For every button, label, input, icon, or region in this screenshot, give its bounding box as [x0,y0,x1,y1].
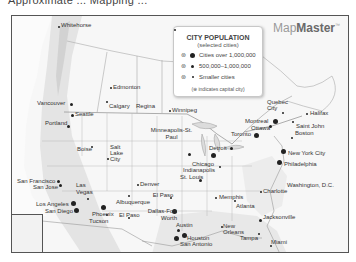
city-dot-miami [270,245,272,247]
city-dot-memphis [215,197,217,199]
city-dot-san-francisco [57,180,60,183]
city-label-new-york-city[interactable]: New York City [288,150,325,156]
city-label-atlanta[interactable]: Atlanta [236,203,255,209]
city-dot-calgary [106,101,108,103]
city-label-indianapolis[interactable]: Indianapolis [183,167,215,173]
city-label-tampa[interactable]: Tampa [240,235,258,241]
city-label-minneapolis-st-paul[interactable]: Minneapolis-St. Paul [149,127,194,141]
city-dot-whitehorse [58,26,60,28]
city-label-calgary[interactable]: Calgary [109,103,130,109]
city-dot-san-diego [74,208,79,213]
capital-star-icon: ⊛ [180,51,187,59]
city-label-vancouver[interactable]: Vancouver [37,100,65,106]
city-label-los-angeles[interactable]: Los Angeles [36,201,69,207]
city-dot-seattle [71,114,74,117]
city-dot-portland [67,125,70,128]
city-dot-albuquerque [128,195,130,197]
capital-star-icon: ⊛ [180,62,187,70]
city-label-halifax[interactable]: Halifax [310,110,328,116]
city-dot-tucson [106,214,108,216]
city-label-detroit[interactable]: Detroit [209,145,227,151]
city-dot-phoenix [101,205,106,210]
city-dot-tampa [258,233,260,235]
city-label-st-louis[interactable]: St. Louis [180,174,203,180]
city-population-legend: CITY POPULATION (selected cities) ⊛Citie… [173,26,263,97]
city-label-las-vegas[interactable]: Las Vegas [76,182,92,196]
legend-capital-note: (⊛ indicates capital city) [174,86,262,92]
city-label-new-orleans[interactable]: New Orleans [223,223,245,235]
legend-title: CITY POPULATION [174,34,262,41]
city-label-montreal[interactable]: Montreal [245,118,268,124]
city-dot-saint-john [292,121,294,123]
inset-map-box [12,214,43,253]
city-dot-philadelphia [277,160,282,165]
city-dot-charlotte [260,191,262,193]
small-dot-icon [192,76,194,78]
city-label-austin[interactable]: Austin [176,222,193,228]
legend-subtitle: (selected cities) [174,42,262,48]
legend-row-medium: ⊛500,000–1,000,000 [180,62,251,70]
mapmaster-logo: MapMaster™ [273,21,340,35]
city-label-el-paso[interactable]: El Paso [119,212,140,218]
legend-row-large: ⊛Cities over 1,000,000 [180,51,256,59]
city-dot-minneapolis [188,153,191,156]
city-dot-montreal [273,119,278,124]
city-dot-san-antonio [174,236,179,241]
large-dot-icon [190,53,195,58]
city-dot-halifax [306,113,308,115]
city-label-boise[interactable]: Boise [77,146,92,152]
city-dot-toronto [254,133,259,138]
city-dot-las-vegas [87,198,89,200]
city-dot-atlanta [234,200,236,202]
city-label-tucson[interactable]: Tucson [89,218,108,224]
city-label-salt-lake-city[interactable]: Salt Lake City [110,144,130,162]
city-dot-detroit [230,147,233,150]
city-label-winnipeg[interactable]: Winnipeg [172,107,197,113]
city-label-ottawa[interactable]: Ottawa [251,125,270,131]
city-dot-winnipeg [169,110,171,112]
city-dot-boston [291,137,293,139]
legend-row-small: ⊛Smaller cities [180,73,235,81]
city-dot-chicago [211,153,216,158]
city-label-boston[interactable]: Boston [295,130,314,136]
city-dot-san-jose [59,184,62,187]
city-label-portland[interactable]: Portland [45,120,67,126]
city-label-albuquerque[interactable]: Albuquerque [116,199,150,205]
city-label-oklahoma-city[interactable]: El Paso [148,192,178,199]
city-label-san-diego[interactable]: San Diego [45,208,73,214]
city-label-regina[interactable]: Regina [136,103,155,109]
map-frame[interactable]: MapMaster™ CITY POPULATION (selected cit… [11,15,349,253]
city-label-edmonton[interactable]: Edmonton [113,84,140,90]
city-label-quebec-city[interactable]: Quebec City [267,99,289,111]
city-label-whitehorse[interactable]: Whitehorse [61,22,91,28]
city-label-washington-dc[interactable]: Washington, D.C. [287,182,334,188]
city-label-denver[interactable]: Denver [140,181,159,187]
city-dot-edmonton [110,87,112,89]
city-label-philadelphia[interactable]: Philadelphia [284,161,317,167]
capital-star-icon: ⊛ [180,73,187,81]
city-label-phoenix[interactable]: Phoenix [92,211,114,217]
city-label-san-jose[interactable]: San Jose [33,184,58,190]
city-dot-indianapolis [219,166,221,168]
city-label-memphis[interactable]: Memphis [219,194,243,200]
city-dot-austin [177,229,180,232]
city-label-san-antonio[interactable]: San Antonio [180,241,212,247]
medium-dot-icon [191,65,194,68]
cut-off-title: Approximate ... Mapping ... [8,0,148,6]
city-label-dallas-fort-worth[interactable]: Dallas-Fort Worth [142,208,177,222]
city-label-miami[interactable]: Miami [271,239,287,245]
city-dot-jacksonville [259,219,262,222]
city-dot-whitehorse [174,29,176,31]
city-dot-denver [137,184,139,186]
city-label-toronto[interactable]: Toronto [231,131,251,137]
city-label-jacksonville[interactable]: Jacksonville [263,214,295,220]
city-dot-los-angeles [71,201,76,206]
city-dot-vancouver [70,103,73,106]
city-dot-salt-lake-city [107,158,109,160]
city-label-saint-john[interactable]: Saint John [296,123,324,129]
city-label-seattle[interactable]: Seattle [75,111,94,117]
city-dot-quebec-city [282,112,284,114]
city-label-charlotte[interactable]: Charlotte [263,188,287,194]
city-dot-new-york-city [281,149,286,154]
